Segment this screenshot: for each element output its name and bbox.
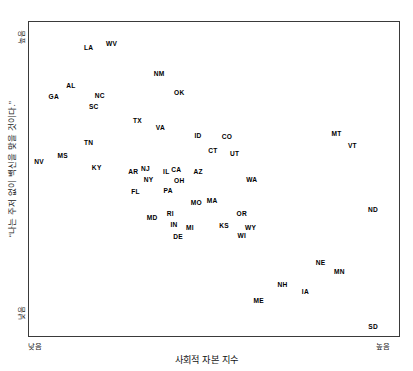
data-point-label: GA (49, 94, 59, 101)
data-point-label: PA (164, 188, 173, 195)
y-axis-low-label: 낮음 (14, 296, 28, 330)
data-point-label: OR (237, 211, 247, 218)
data-point-label: NE (316, 259, 326, 266)
data-point-label: AR (128, 169, 138, 176)
data-point-label: MO (191, 200, 202, 207)
data-point-label: NY (144, 177, 154, 184)
data-point-label: ID (195, 133, 202, 140)
data-point-label: TN (84, 140, 93, 147)
data-point-label: WI (237, 232, 246, 239)
data-point-label: LA (84, 44, 93, 51)
data-point-label: AZ (193, 169, 202, 176)
data-point-label: AL (66, 82, 75, 89)
data-point-label: TX (133, 118, 142, 125)
data-point-label: KY (92, 165, 102, 172)
data-point-label: CO (222, 134, 232, 141)
data-point-label: NV (34, 159, 44, 166)
data-point-label: IL (163, 169, 169, 176)
data-point-label: WA (246, 177, 257, 184)
scatter-plot-figure: “나는 주저 없이 백신을 맞을 것이다.” 높음 낮음 LAWVNMALGAN… (0, 0, 413, 371)
x-axis-title: 사회적 자본 지수 (0, 352, 413, 366)
data-point-label: MS (57, 153, 67, 160)
data-point-label: UT (230, 151, 239, 158)
data-point-label: MN (334, 269, 345, 276)
data-point-label: CA (171, 167, 181, 174)
data-point-label: IA (302, 289, 309, 296)
data-point-label: SD (368, 324, 378, 331)
plot-area: LAWVNMALGANCSCOKTXVAIDCOMTVTTNMSNVCTUTKY… (28, 21, 400, 337)
x-axis-high-label: 높음 (376, 340, 390, 351)
data-point-label: NH (277, 282, 287, 289)
data-point-label: IN (170, 222, 177, 229)
data-point-label: ND (368, 206, 378, 213)
data-point-label: NJ (141, 166, 150, 173)
data-point-label: DE (173, 233, 183, 240)
data-point-label: SC (89, 104, 99, 111)
x-axis-low-label: 낮음 (28, 340, 42, 351)
data-point-label: ME (254, 298, 264, 305)
data-point-label: NM (154, 71, 165, 78)
y-axis-high-label-text: 높음 (16, 30, 26, 44)
data-point-label: RI (167, 211, 174, 218)
data-point-label: WY (245, 224, 256, 231)
data-point-label: VA (156, 125, 165, 132)
data-point-label: CT (208, 148, 217, 155)
data-point-label: KS (219, 222, 229, 229)
data-point-label: VT (348, 143, 357, 150)
y-axis-low-label-text: 낮음 (16, 306, 26, 320)
data-point-label: MT (331, 131, 341, 138)
data-point-label: MI (186, 224, 194, 231)
data-point-label: FL (131, 189, 140, 196)
y-axis-title-text: “나는 주저 없이 백신을 맞을 것이다.” (5, 101, 17, 237)
data-point-label: OH (174, 178, 184, 185)
data-point-label: OK (174, 89, 184, 96)
data-point-label: NC (95, 93, 105, 100)
data-point-label: MA (207, 198, 218, 205)
data-point-label: WV (106, 41, 117, 48)
y-axis-high-label: 높음 (14, 20, 28, 54)
data-point-label: MD (147, 214, 158, 221)
